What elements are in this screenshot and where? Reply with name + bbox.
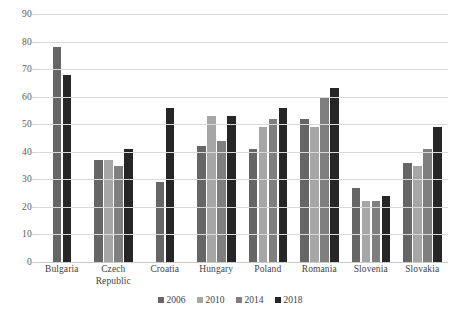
y-tick-label: 40: [22, 147, 32, 157]
legend-item[interactable]: 2006: [158, 295, 186, 305]
x-axis-label: Bulgaria: [36, 264, 88, 287]
y-tick-label: 70: [22, 64, 32, 74]
y-tick-mark: [32, 42, 36, 43]
legend-label: 2010: [206, 295, 225, 305]
gridline: [36, 152, 448, 153]
bar-group: [88, 14, 140, 262]
bar-chart: 9080706050403020100 BulgariaCzechRepubli…: [0, 0, 460, 324]
bar: [207, 116, 216, 262]
bar: [156, 182, 165, 262]
legend-item[interactable]: 2014: [236, 295, 264, 305]
legend-item[interactable]: 2010: [197, 295, 225, 305]
x-axis-label: Croatia: [139, 264, 191, 287]
bars-layer: [36, 14, 448, 262]
bar: [279, 108, 288, 262]
bar: [104, 160, 113, 262]
bar: [352, 188, 361, 262]
bar: [53, 47, 62, 262]
y-tick-mark: [32, 14, 36, 15]
bar: [94, 160, 103, 262]
y-tick-mark: [32, 207, 36, 208]
bar-group: [294, 14, 346, 262]
bar: [249, 149, 258, 262]
x-axis-label: CzechRepublic: [88, 264, 140, 287]
y-tick-label: 30: [22, 174, 32, 184]
x-axis-label: Poland: [242, 264, 294, 287]
legend-label: 2018: [284, 295, 303, 305]
bar-group: [139, 14, 191, 262]
bar: [300, 119, 309, 262]
gridline: [36, 234, 448, 235]
bar: [382, 196, 391, 262]
bar: [259, 127, 268, 262]
legend-swatch-icon: [236, 297, 242, 303]
x-axis-label: Slovakia: [397, 264, 449, 287]
bar: [124, 149, 133, 262]
legend-item[interactable]: 2018: [275, 295, 303, 305]
bar: [166, 108, 175, 262]
y-tick-mark: [32, 262, 36, 263]
legend-swatch-icon: [275, 297, 281, 303]
y-tick-label: 60: [22, 92, 32, 102]
legend-label: 2014: [245, 295, 264, 305]
bar: [197, 146, 206, 262]
y-tick-label: 10: [22, 229, 32, 239]
gridline: [36, 179, 448, 180]
bar-group: [397, 14, 449, 262]
bar: [269, 119, 278, 262]
bar: [423, 149, 432, 262]
y-tick-mark: [32, 234, 36, 235]
y-tick-label: 90: [22, 9, 32, 19]
bar: [433, 127, 442, 262]
bar: [362, 201, 371, 262]
legend-swatch-icon: [197, 297, 203, 303]
bar-group: [242, 14, 294, 262]
plot-region: 9080706050403020100: [6, 14, 448, 262]
gridline: [36, 124, 448, 125]
y-tick-label: 80: [22, 37, 32, 47]
bar: [310, 127, 319, 262]
y-tick-mark: [32, 97, 36, 98]
plot-area: [36, 14, 448, 262]
gridline: [36, 14, 448, 15]
bar-group: [36, 14, 88, 262]
y-tick-label: 50: [22, 119, 32, 129]
y-tick-label: 20: [22, 202, 32, 212]
x-axis-labels: BulgariaCzechRepublicCroatiaHungaryPolan…: [36, 264, 448, 287]
bar: [403, 163, 412, 262]
y-tick-mark: [32, 152, 36, 153]
gridline: [36, 262, 448, 263]
legend-label: 2006: [167, 295, 186, 305]
bar-group: [345, 14, 397, 262]
bar-group: [191, 14, 243, 262]
y-tick-mark: [32, 179, 36, 180]
gridline: [36, 97, 448, 98]
chart-legend: 2006201020142018: [0, 295, 460, 305]
bar: [372, 201, 381, 262]
y-tick-mark: [32, 69, 36, 70]
x-axis-label: Slovenia: [345, 264, 397, 287]
bar: [227, 116, 236, 262]
gridline: [36, 207, 448, 208]
gridline: [36, 69, 448, 70]
x-axis-label: Hungary: [191, 264, 243, 287]
legend-swatch-icon: [158, 297, 164, 303]
gridline: [36, 42, 448, 43]
y-tick-mark: [32, 124, 36, 125]
bar: [217, 141, 226, 262]
y-axis: 9080706050403020100: [6, 14, 36, 262]
bar: [330, 88, 339, 262]
x-axis-label: Romania: [294, 264, 346, 287]
